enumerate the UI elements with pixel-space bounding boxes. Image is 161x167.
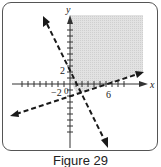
x-tick-label-6: 6 <box>106 89 111 100</box>
figure-caption: Figure 29 <box>0 153 161 167</box>
x-axis-label: x <box>149 79 155 90</box>
arrowhead-icon <box>101 137 108 148</box>
x-tick-label-neg2: −2 <box>51 87 62 98</box>
x-axis-arrow-icon <box>139 81 148 87</box>
arrowhead-icon <box>135 71 144 78</box>
y-tick-label-2: 2 <box>60 65 65 76</box>
arrowhead-icon <box>10 110 19 117</box>
origin-label: 0 <box>64 86 69 96</box>
arrowhead-icon <box>43 16 50 27</box>
y-axis-label: y <box>65 4 71 15</box>
graph: y x 2 −2 0 6 <box>0 0 161 167</box>
